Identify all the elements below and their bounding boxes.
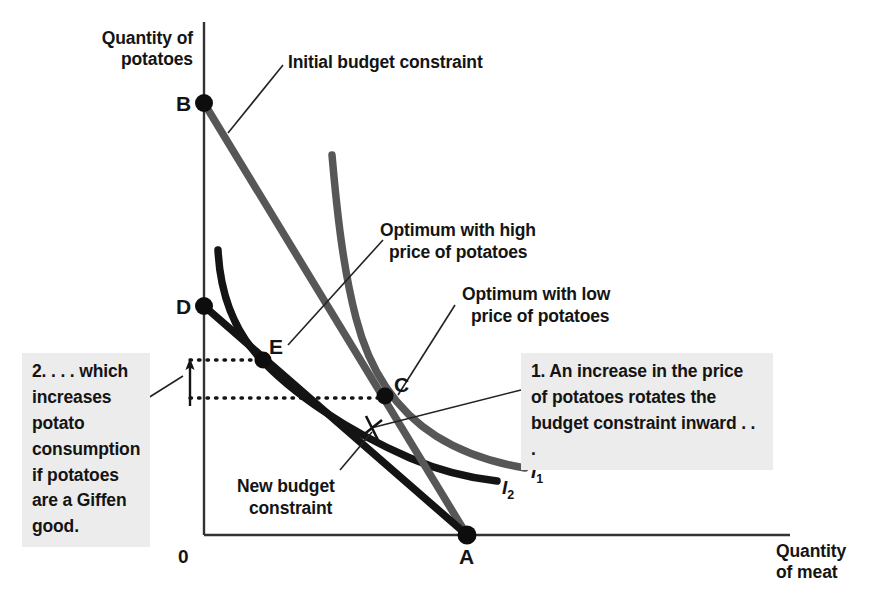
leader-note-2 [148, 376, 183, 398]
callout-optimum-high-price-line1: Optimum with high [380, 220, 536, 241]
point-a-marker [458, 526, 477, 545]
note-2-box: 2. . . . which increases potato consumpt… [22, 353, 150, 547]
y-axis-label-line1: Quantity of [101, 28, 193, 49]
x-axis-label-line2: of meat [776, 562, 838, 583]
x-axis-label-line1: Quantity [776, 541, 846, 562]
leader-initial-budget [228, 65, 283, 133]
callout-optimum-low-price-line2: price of potatoes [471, 306, 609, 327]
new-budget-constraint-line [204, 306, 467, 535]
point-label-a: A [459, 544, 474, 569]
leader-optimum-high-price [288, 240, 383, 345]
figure-canvas: Quantity of potatoes Quantity of meat 0 … [0, 0, 875, 611]
note-1-box: 1. An increase in the price of potatoes … [521, 353, 773, 470]
point-d-marker [195, 297, 213, 315]
curve-label-i1-sub: 1 [536, 472, 543, 486]
point-b-marker [195, 94, 213, 112]
callout-optimum-low-price-line1: Optimum with low [462, 284, 610, 305]
callout-new-budget-constraint-line1: New budget [237, 476, 335, 497]
point-label-c: C [394, 372, 409, 397]
origin-label: 0 [178, 546, 189, 569]
point-label-d: D [176, 294, 191, 319]
point-label-b: B [176, 91, 191, 116]
callout-optimum-high-price-line2: price of potatoes [389, 242, 527, 263]
y-axis-label-line2: potatoes [101, 49, 193, 70]
callout-initial-budget-constraint: Initial budget constraint [288, 52, 483, 73]
curve-label-i2: I2 [502, 477, 514, 503]
callout-new-budget-constraint-line2: constraint [249, 498, 332, 519]
curve-label-i2-sub: 2 [507, 488, 514, 502]
point-c-marker [377, 388, 394, 405]
point-label-e: E [269, 334, 283, 359]
